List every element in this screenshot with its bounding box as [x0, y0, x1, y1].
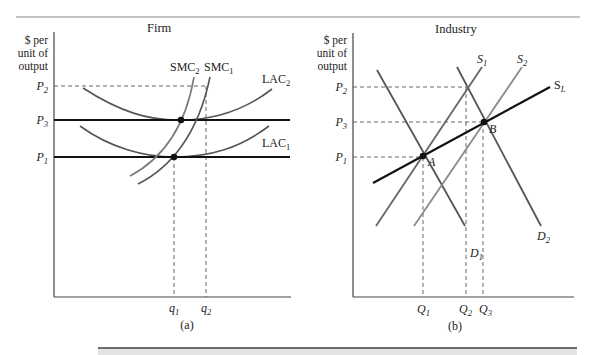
- point-b-dot: [481, 119, 488, 126]
- d1-curve: [377, 70, 465, 226]
- s1-label: S1: [477, 52, 487, 68]
- sl-label: SL: [554, 78, 566, 94]
- smc1-label: SMC1: [204, 60, 234, 76]
- smc2-curve: [130, 77, 194, 176]
- d2-curve: [457, 67, 541, 226]
- industry-title: Industry: [435, 22, 477, 36]
- d1-label: D1: [469, 246, 483, 262]
- firm-ylabel-line3: output: [19, 60, 49, 73]
- lac1-curve: [80, 126, 269, 157]
- firm-tick-q1: q1: [169, 301, 179, 317]
- lac1-label: LAC1: [262, 136, 290, 152]
- firm-title: Firm: [147, 21, 172, 35]
- sl-curve: [373, 87, 550, 183]
- lac2-curve-smooth: [83, 88, 272, 120]
- industry-tick-p3: P3: [334, 115, 347, 131]
- firm-panel: Firm $ per unit of output P2 P3 P1 q1 q: [18, 21, 291, 332]
- firm-caption: (a): [180, 318, 193, 332]
- point-a-dot: [420, 153, 427, 160]
- firm-ylabel-line2: unit of: [18, 47, 49, 59]
- industry-tick-q2: Q2: [459, 302, 473, 318]
- firm-tick-p2: P2: [35, 79, 48, 95]
- point-a-label: A: [427, 155, 436, 169]
- industry-panel: Industry $ per unit of output A B P2 P3 …: [317, 22, 574, 333]
- industry-ylabel-line2: unit of: [317, 47, 348, 59]
- firm-equilibrium-dot-p1: [171, 154, 178, 161]
- firm-ylabel-line1: $ per: [25, 34, 48, 47]
- point-b-label: B: [489, 122, 497, 136]
- lac2-label: LAC2: [262, 72, 290, 88]
- smc2-label: SMC2: [170, 60, 200, 76]
- industry-ylabel-line1: $ per: [324, 34, 347, 47]
- industry-tick-q1: Q1: [417, 302, 430, 318]
- s2-curve: [414, 67, 522, 226]
- industry-tick-q3: Q3: [479, 302, 492, 318]
- figure-canvas: Firm $ per unit of output P2 P3 P1 q1 q: [0, 0, 595, 355]
- firm-tick-p1: P1: [35, 150, 48, 166]
- industry-caption: (b): [448, 319, 462, 333]
- firm-tick-p3: P3: [35, 113, 48, 129]
- firm-tick-q2: q2: [201, 301, 212, 317]
- firm-equilibrium-dot-p3: [178, 117, 185, 124]
- industry-tick-p1: P1: [334, 150, 347, 166]
- industry-tick-p2: P2: [334, 80, 347, 96]
- industry-ylabel-line3: output: [318, 60, 348, 73]
- s2-label: S2: [517, 52, 528, 68]
- d2-label: D2: [536, 229, 551, 245]
